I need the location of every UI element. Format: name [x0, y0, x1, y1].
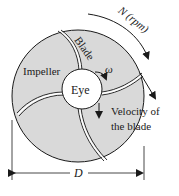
velocity-label-line2: the blade [111, 120, 151, 132]
velocity-label-line1: Velocity of [111, 105, 160, 117]
impeller-label: Impeller [23, 65, 61, 77]
impeller-diagram: N (rpm) Blade Impeller ω Eye Velocity of… [0, 0, 179, 196]
diameter-label: D [73, 166, 83, 180]
omega-label: ω [105, 63, 113, 75]
eye-label: Eye [71, 83, 90, 97]
speed-label: N (rpm) [115, 3, 152, 36]
